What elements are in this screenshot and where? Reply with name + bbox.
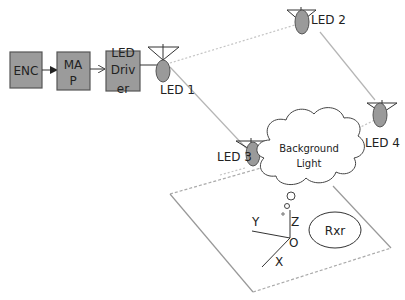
receiver: Rxr xyxy=(309,212,361,248)
led-1: LED 1 xyxy=(148,44,195,97)
cloud-label-line2: Light xyxy=(297,158,322,169)
cloud-label-line1: Background xyxy=(279,143,339,154)
led-4: LED 4 xyxy=(365,100,400,150)
led-3-label: LED 3 xyxy=(217,150,252,164)
y-axis xyxy=(252,231,290,238)
led-2-label: LED 2 xyxy=(311,13,346,27)
driver-label-line1: LED xyxy=(111,46,135,60)
map-label-line2: P xyxy=(69,74,76,88)
led-1-label: LED 1 xyxy=(160,83,195,97)
vlc-system-diagram: ENC MA P LED Driv er LED 1 LED 2 LED 3 L… xyxy=(0,0,405,300)
z-axis-label: Z xyxy=(291,215,299,229)
background-light-cloud: Background Light xyxy=(257,108,365,216)
driver-label-line3: er xyxy=(117,82,129,96)
origin-label: O xyxy=(289,236,298,250)
ray-led1-led3 xyxy=(170,67,246,148)
thought-bubble-medium xyxy=(285,204,290,209)
coordinate-axes: Z Y O X xyxy=(251,210,299,269)
plane-edge-top xyxy=(170,166,268,194)
plane-edge-left xyxy=(170,194,253,292)
led-4-label: LED 4 xyxy=(365,136,400,150)
y-axis-label: Y xyxy=(251,215,260,229)
antenna-icon xyxy=(148,44,179,60)
driver-label-line2: Driv xyxy=(111,63,136,77)
led-4-bulb xyxy=(373,103,387,127)
led-2: LED 2 xyxy=(287,7,346,34)
ray-led2-led4 xyxy=(320,32,375,100)
thought-bubble-small xyxy=(282,213,284,215)
receiver-label: Rxr xyxy=(325,224,345,238)
ray-led1-led2 xyxy=(170,25,295,63)
enc-label: ENC xyxy=(14,64,39,78)
x-axis-label: X xyxy=(275,255,283,269)
ray-led3-plane xyxy=(220,168,245,175)
thought-bubble-large xyxy=(287,192,295,200)
map-label-line1: MA xyxy=(64,58,83,72)
led-2-bulb xyxy=(295,10,309,34)
led-1-bulb xyxy=(156,60,170,82)
